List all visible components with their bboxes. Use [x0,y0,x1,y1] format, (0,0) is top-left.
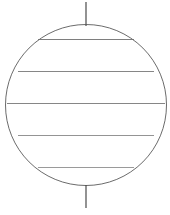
figure-root: Sphere with polar axis and latitude circ… [0,0,170,215]
sphere-latitude-diagram: Sphere with polar axis and latitude circ… [0,0,170,215]
figure-background [0,0,170,215]
